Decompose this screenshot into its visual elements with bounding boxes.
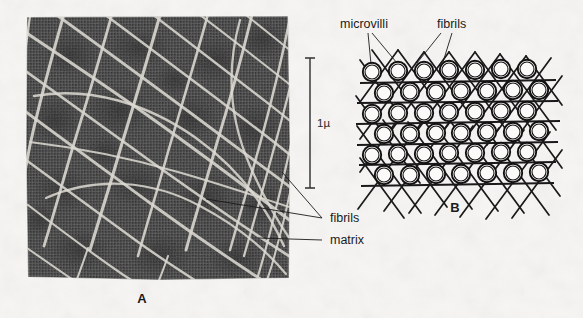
scientific-figure: fibrils matrix 1µ A <box>0 0 583 318</box>
label-fibrils-b: fibrils <box>437 17 466 31</box>
figure-root: fibrils matrix 1µ A <box>0 0 583 318</box>
label-microvilli: microvilli <box>340 17 388 31</box>
label-matrix: matrix <box>330 233 365 247</box>
panel-letter-b: B <box>450 200 459 215</box>
micrograph-grain <box>24 14 294 284</box>
panel-letter-a: A <box>137 291 147 306</box>
label-fibrils-a: fibrils <box>330 211 359 225</box>
panel-a-micrograph <box>16 14 300 312</box>
scale-bar-label: 1µ <box>317 117 330 129</box>
